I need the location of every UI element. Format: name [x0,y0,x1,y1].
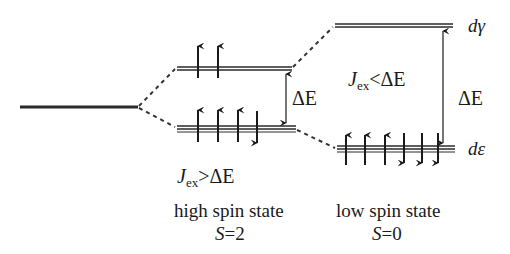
low-spin-S-value: S=0 [372,223,402,244]
high-spin-lower-level [177,126,296,132]
connector-dashed [139,69,175,106]
high-spin-S-value: S=2 [215,223,245,244]
connector-dashed [139,108,175,127]
delta-e-label-low: ΔE [458,87,483,109]
d-epsilon-label: dε [468,138,486,159]
low-spin-upper-level [335,24,453,27]
delta-e-label-high: ΔE [292,87,317,109]
energy-level-diagram: ΔE ΔE dγ dε Jex<ΔE Jex>ΔE high spin stat… [0,0,510,254]
low-spin-state-label: low spin state [336,200,441,221]
connector-dashed [293,27,333,67]
d-gamma-label: dγ [468,15,486,36]
high-spin-upper-level [177,67,292,70]
high-spin-state-label: high spin state [174,200,284,221]
high-spin-condition: Jex>ΔE [177,165,235,190]
connector-dashed [297,130,335,148]
low-spin-condition: Jex<ΔE [348,68,406,93]
